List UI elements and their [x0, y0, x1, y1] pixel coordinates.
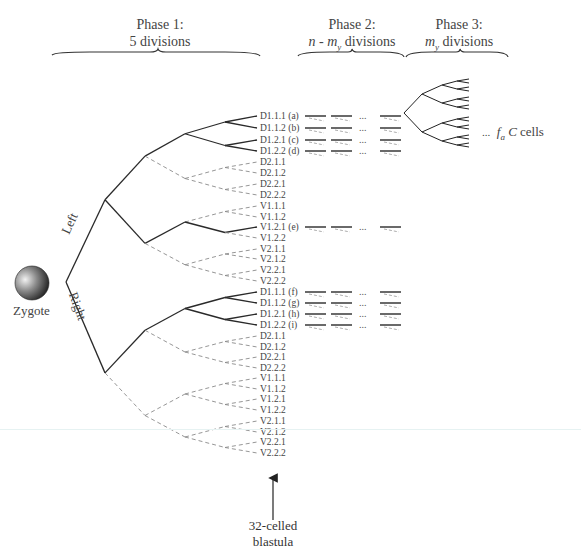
right-leaf-label: D2.2.1 [260, 352, 286, 362]
right-leaf-label: V1.2.1 [260, 394, 286, 404]
left-leaf-label: D2.1.2 [260, 168, 286, 178]
left-leaf-label: V2.2.1 [260, 265, 286, 275]
left-leaf-label: V1.2.1 (e) [260, 222, 299, 232]
left-leaf-label: V1.1.1 [260, 201, 286, 211]
zygote-label: Zygote [13, 303, 50, 319]
right-leaf-label: V2.1.1 [260, 416, 286, 426]
svg-text:...: ... [359, 145, 367, 156]
left-leaf-label: V2.1.1 [260, 244, 286, 254]
svg-text:...: ... [359, 221, 367, 232]
right-leaf-label: V2.2.1 [260, 437, 286, 447]
scan-line-artifact [0, 429, 581, 430]
left-leaf-label: D2.1.1 [260, 157, 286, 167]
svg-text:...: ... [359, 297, 367, 308]
fa-c-cells-label: ... fa C cells [482, 124, 544, 142]
right-leaf-label: D1.2.2 (i) [260, 320, 297, 330]
svg-text:...: ... [359, 308, 367, 319]
svg-text:...: ... [359, 134, 367, 145]
right-leaf-label: V2.2.2 [260, 448, 286, 458]
svg-text:...: ... [359, 319, 367, 330]
left-leaf-label: D1.2.1 (c) [260, 135, 299, 145]
right-leaf-label: V1.1.1 [260, 373, 286, 383]
blastula-label: 32-celled blastula [233, 518, 313, 550]
right-leaf-label: D2.2.2 [260, 363, 286, 373]
right-leaf-label: V1.2.2 [260, 405, 286, 415]
svg-text:...: ... [359, 286, 367, 297]
left-leaf-label: V1.1.2 [260, 212, 286, 222]
blastula-line-2: blastula [233, 534, 313, 550]
phase-2-segments: ........................... [305, 110, 401, 330]
left-leaf-label: D2.2.1 [260, 179, 286, 189]
blastula-line-1: 32-celled [233, 518, 313, 534]
left-leaf-label: V1.2.2 [260, 233, 286, 243]
left-leaf-label: D2.2.2 [260, 190, 286, 200]
left-leaf-label: D1.1.1 (a) [260, 111, 299, 121]
right-leaf-label: V1.1.2 [260, 384, 286, 394]
lineage-tree-diagram: ........................... [0, 0, 581, 555]
right-leaf-label: D2.1.2 [260, 342, 286, 352]
zygote-cell-icon [15, 266, 49, 300]
left-leaf-label: V2.1.2 [260, 254, 286, 264]
left-leaf-label: V2.2.2 [260, 276, 286, 286]
right-leaf-label: D1.1.1 (f) [260, 287, 298, 297]
phase-braces [52, 49, 508, 57]
left-leaf-label: D1.2.2 (d) [260, 146, 299, 156]
phase-3-subtree [404, 79, 469, 147]
left-leaf-label: D1.1.2 (b) [260, 123, 299, 133]
right-leaf-label: D1.1.2 (g) [260, 298, 299, 308]
division-tree [66, 116, 257, 453]
svg-text:...: ... [359, 122, 367, 133]
right-leaf-label: D1.2.1 (h) [260, 309, 299, 319]
svg-text:...: ... [359, 110, 367, 121]
right-leaf-label: D2.1.1 [260, 331, 286, 341]
